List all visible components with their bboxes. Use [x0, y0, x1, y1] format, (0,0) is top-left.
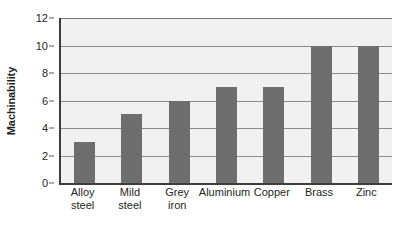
- x-axis-label-line-1: Alloy: [71, 186, 95, 198]
- x-axis-label-line-1: Copper: [254, 186, 290, 198]
- x-axis-label-line-1: Aluminium: [199, 186, 250, 198]
- x-axis-tick-labels: AlloysteelMildsteelGreyironAluminiumCopp…: [59, 186, 390, 228]
- y-axis-tick-mark: [49, 45, 54, 46]
- y-axis-tick-mark: [49, 73, 54, 74]
- y-axis-title: Machinability: [5, 67, 17, 135]
- x-axis-tick-label: Zinc: [356, 186, 377, 199]
- x-axis-label-line-1: Zinc: [356, 186, 377, 198]
- bar: [169, 101, 190, 184]
- bar-series: [61, 18, 392, 183]
- y-axis-tick-mark: [49, 18, 54, 19]
- x-axis-tick-label: Alloysteel: [71, 186, 95, 212]
- y-axis-tick-label: 8: [42, 67, 48, 79]
- bar: [263, 87, 284, 183]
- y-axis-tick-mark: [49, 128, 54, 129]
- x-axis-tick-label: Greyiron: [165, 186, 189, 212]
- x-axis-label-line-1: Brass: [305, 186, 333, 198]
- x-axis-tick-label: Aluminium: [199, 186, 250, 199]
- x-axis-tick-label: Brass: [305, 186, 333, 199]
- bar: [74, 142, 95, 183]
- plot-area: [59, 18, 392, 185]
- bar: [121, 114, 142, 183]
- y-axis-tick-mark: [49, 100, 54, 101]
- x-axis-label-line-2: steel: [118, 199, 141, 212]
- x-axis-label-line-2: iron: [165, 199, 189, 212]
- x-axis-label-line-1: Mild: [120, 186, 140, 198]
- y-axis-tick-label: 12: [36, 12, 48, 24]
- y-axis-tick-label: 10: [36, 40, 48, 52]
- y-axis-tick-mark: [49, 155, 54, 156]
- y-axis-tick-label: 6: [42, 95, 48, 107]
- x-axis-tick-label: Copper: [254, 186, 290, 199]
- x-axis-label-line-1: Grey: [165, 186, 189, 198]
- y-axis-tick-label: 2: [42, 150, 48, 162]
- y-axis-tick-label: 4: [42, 122, 48, 134]
- y-axis-tick-mark: [49, 183, 54, 184]
- machinability-bar-chart: Machinability 024681012 AlloysteelMildst…: [0, 0, 400, 228]
- y-axis-tick-label: 0: [42, 177, 48, 189]
- bar: [311, 46, 332, 184]
- y-axis-title-container: Machinability: [0, 18, 22, 184]
- x-axis-tick-label: Mildsteel: [118, 186, 141, 212]
- y-axis-tick-labels: 024681012: [22, 0, 54, 228]
- bar: [358, 46, 379, 184]
- x-axis-label-line-2: steel: [71, 199, 95, 212]
- bar: [216, 87, 237, 183]
